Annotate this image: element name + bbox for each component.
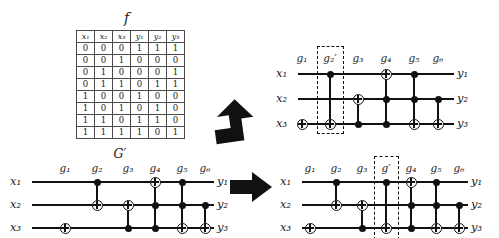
table-cell: 1 (113, 103, 131, 115)
xor-target-icon (381, 69, 392, 80)
table-cell: 0 (149, 67, 167, 79)
control-dot (333, 179, 340, 186)
xor-target-icon (409, 119, 420, 130)
output-label: y₂ (457, 91, 468, 105)
table-cell: 1 (113, 127, 131, 139)
column-header: x₁ (77, 31, 95, 43)
table-cell: 0 (131, 55, 149, 67)
gate-label: g₂ (331, 162, 342, 174)
gate-label: g₄ (381, 52, 392, 64)
table-row: 100100 (77, 91, 185, 103)
control-dot (433, 202, 440, 209)
table-cell: 0 (149, 55, 167, 67)
table-cell: 0 (131, 103, 149, 115)
gate-label: g₃ (123, 162, 134, 174)
output-label: y₂ (471, 197, 482, 211)
column-header: y₃ (167, 31, 185, 43)
table-cell: 0 (77, 67, 95, 79)
control-dot (456, 202, 463, 209)
column-header: y₂ (149, 31, 167, 43)
table-cell: 0 (77, 43, 95, 55)
table-cell: 0 (167, 91, 185, 103)
control-dot (359, 225, 366, 232)
highlight-box (317, 46, 344, 134)
gate-label: g₄ (406, 162, 417, 174)
table-cell: 1 (113, 55, 131, 67)
input-label: x₃ (280, 220, 291, 234)
table-cell: 0 (113, 67, 131, 79)
table-cell: 0 (149, 91, 167, 103)
table-cell: 0 (167, 115, 185, 127)
table-cell: 1 (131, 127, 149, 139)
gate-label: g₆ (454, 162, 465, 174)
table-cell: 1 (95, 115, 113, 127)
output-label: y₂ (217, 197, 228, 211)
table-row: 011011 (77, 79, 185, 91)
highlight-box (374, 156, 399, 238)
table-cell: 1 (95, 67, 113, 79)
table-cell: 1 (167, 67, 185, 79)
table-cell: 1 (77, 91, 95, 103)
control-dot (125, 225, 132, 232)
gate-label: g₁ (305, 162, 316, 174)
xor-target-icon (60, 223, 71, 234)
control-dot (435, 96, 442, 103)
table-cell: 1 (149, 103, 167, 115)
input-label: x₂ (280, 197, 291, 211)
column-header: x₂ (95, 31, 113, 43)
table-header-row: x₁x₂x₃y₁y₂y₃ (77, 31, 185, 43)
xor-target-icon (200, 223, 211, 234)
control-dot (433, 179, 440, 186)
xor-target-icon (431, 223, 442, 234)
table-cell: 1 (77, 127, 95, 139)
control-dot (411, 96, 418, 103)
output-label: y₃ (457, 116, 468, 130)
xor-target-icon (123, 200, 134, 211)
table-cell: 1 (167, 79, 185, 91)
control-dot (152, 225, 159, 232)
gate-label: g₁ (297, 52, 308, 64)
table-row: 110110 (77, 115, 185, 127)
circuit-bottom-right: x₁x₂x₃y₁y₂y₃g₁g₂g₃g′g₄g₅g₆ (272, 150, 499, 238)
table-cell: 0 (167, 55, 185, 67)
gate-label: g₁ (60, 162, 71, 174)
xor-target-icon (150, 177, 161, 188)
control-dot (179, 202, 186, 209)
table-cell: 0 (167, 103, 185, 115)
control-dot (152, 202, 159, 209)
xor-target-icon (305, 223, 316, 234)
column-header: y₁ (131, 31, 149, 43)
output-label: y₁ (471, 174, 482, 188)
input-label: x₃ (276, 116, 287, 130)
output-label: y₁ (457, 66, 468, 80)
table-row: 111101 (77, 127, 185, 139)
control-dot (383, 121, 390, 128)
table-cell: 1 (131, 91, 149, 103)
column-header: x₃ (113, 31, 131, 43)
output-label: y₃ (217, 220, 228, 234)
table-cell: 0 (113, 91, 131, 103)
table-cell: 1 (95, 79, 113, 91)
truth-table: x₁x₂x₃y₁y₂y₃0001110010000100010110111001… (76, 30, 185, 139)
wire-line (32, 181, 214, 183)
table-cell: 0 (95, 91, 113, 103)
circuit-title-g-prime: G′ (114, 146, 127, 161)
table-cell: 0 (113, 115, 131, 127)
table-row: 001000 (77, 55, 185, 67)
table-row: 000111 (77, 43, 185, 55)
control-dot (179, 179, 186, 186)
table-cell: 1 (149, 79, 167, 91)
input-label: x₂ (10, 197, 21, 211)
output-label: y₃ (471, 220, 482, 234)
table-row: 010001 (77, 67, 185, 79)
circuit-top-right: x₁x₂x₃y₁y₂y₃g₁g₂′g₃g₄g₅g₆ (258, 38, 499, 136)
xor-target-icon (92, 200, 103, 211)
table-cell: 0 (95, 43, 113, 55)
input-label: x₁ (10, 174, 21, 188)
table-cell: 1 (131, 43, 149, 55)
control-dot (408, 225, 415, 232)
table-cell: 0 (149, 127, 167, 139)
table-cell: 0 (113, 43, 131, 55)
table-cell: 0 (77, 55, 95, 67)
gate-label: g₆ (433, 52, 444, 64)
